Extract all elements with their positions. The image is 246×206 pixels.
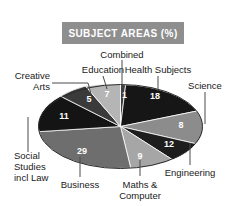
slice-value-maths-computer: 9 — [137, 151, 142, 161]
pie-chart-figure: SUBJECT AREAS (%) — [0, 0, 246, 206]
label-creative-arts-line1: Creative — [15, 70, 50, 81]
label-social-line3: incl Law — [14, 172, 48, 183]
label-creative-arts-line2: Arts — [33, 81, 50, 92]
slice-value-health-subjects: 18 — [150, 91, 160, 101]
label-social-line2: Studies — [14, 161, 46, 172]
slice-value-education: 7 — [104, 89, 109, 99]
slice-value-business: 29 — [77, 146, 87, 156]
slice-value-science: 8 — [178, 120, 183, 130]
label-combined: Combined — [100, 49, 143, 60]
slice-value-creative-arts: 5 — [86, 94, 91, 104]
slice-value-engineering: 12 — [164, 139, 174, 149]
label-engineering: Engineering — [165, 167, 216, 178]
slice-value-social-studies: 11 — [59, 111, 69, 121]
label-maths-line2: Computer — [119, 190, 161, 201]
label-health-subjects: Health Subjects — [125, 64, 192, 75]
label-maths-line1: Maths & — [123, 179, 159, 190]
label-social-line1: Social — [14, 150, 40, 161]
label-business: Business — [61, 179, 100, 190]
pie-chart-svg: 1 18 8 12 9 29 11 5 7 — [0, 0, 246, 206]
slice-value-combined: 1 — [122, 90, 127, 100]
label-science: Science — [188, 80, 222, 91]
label-education: Education — [82, 64, 124, 75]
